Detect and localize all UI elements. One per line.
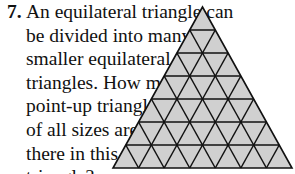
- triangle-grid-figure: [0, 0, 295, 174]
